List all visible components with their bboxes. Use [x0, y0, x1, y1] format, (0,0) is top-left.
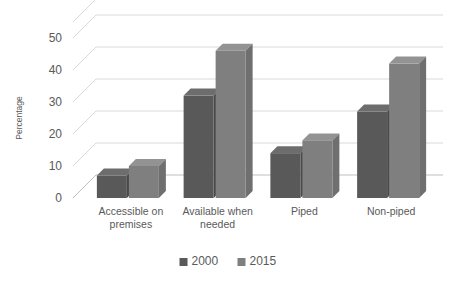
x-category-label: Accessible on — [98, 205, 163, 217]
x-category-label: Available when — [182, 205, 253, 217]
y-tick-label: 10 — [49, 159, 63, 173]
bar-front-face — [216, 51, 246, 198]
bar-front-face — [97, 176, 127, 198]
legend-swatch[interactable] — [180, 258, 188, 266]
bar-front-face — [270, 153, 300, 198]
bar-3d — [129, 159, 166, 198]
bar-3d — [357, 105, 394, 198]
y-tick-label: 30 — [49, 95, 63, 109]
x-category-label: Piped — [291, 205, 318, 217]
x-category-label: Non-piped — [367, 205, 416, 217]
bar-front-face — [302, 140, 332, 198]
x-category-label: needed — [200, 218, 235, 230]
bar-chart-3d: 01020304050 Accessible onpremisesAvailab… — [0, 0, 457, 285]
y-tick-label: 0 — [55, 191, 62, 205]
y-tick-label: 50 — [49, 31, 63, 45]
legend-label[interactable]: 2000 — [192, 254, 219, 268]
y-tick-label: 40 — [49, 63, 63, 77]
bar-3d — [216, 44, 253, 198]
y-axis-title: Percentage — [14, 96, 24, 140]
x-category-label: premises — [110, 218, 153, 230]
legend-label[interactable]: 2015 — [250, 254, 277, 268]
bar-3d — [184, 89, 221, 198]
bar-3d — [302, 133, 339, 198]
bar-side-face — [332, 133, 339, 198]
bar-front-face — [357, 112, 387, 198]
bar-front-face — [129, 166, 159, 198]
chart-container: 01020304050 Accessible onpremisesAvailab… — [0, 0, 457, 285]
y-tick-label: 20 — [49, 127, 63, 141]
bar-front-face — [389, 64, 419, 198]
bar-side-face — [419, 57, 426, 198]
bar-3d — [97, 169, 134, 198]
bar-front-face — [184, 96, 214, 198]
bar-3d — [389, 57, 426, 198]
legend-swatch[interactable] — [238, 258, 246, 266]
bar-side-face — [246, 44, 253, 198]
bar-3d — [270, 146, 307, 198]
